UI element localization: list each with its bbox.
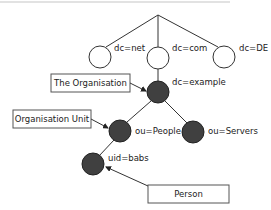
node-uid-babs[interactable] — [82, 153, 104, 175]
node-ou-servers[interactable] — [182, 121, 204, 143]
label-dc-com: dc=com — [172, 43, 207, 53]
label-uid-babs: uid=babs — [108, 153, 149, 163]
callout-arrow — [106, 167, 148, 186]
callout-label: Organisation Unit — [15, 114, 90, 124]
callout-organisation-unit: Organisation Unit — [13, 110, 108, 128]
label-dc-net: dc=net — [114, 43, 146, 53]
tree-nodes — [82, 46, 235, 175]
callout-arrow — [130, 83, 146, 91]
label-dc-de: dc=DE — [239, 43, 268, 53]
label-ou-people: ou=People — [135, 126, 181, 136]
edge-example-servers — [165, 101, 187, 123]
callout-person: Person — [106, 167, 229, 203]
callout-label: Person — [174, 189, 203, 199]
callout-the-organisation: The Organisation — [51, 74, 146, 92]
node-dc-com[interactable] — [147, 47, 169, 69]
node-dc-net[interactable] — [89, 46, 111, 68]
callout-label: The Organisation — [53, 78, 127, 88]
node-dc-example[interactable] — [147, 81, 169, 103]
node-dc-de[interactable] — [213, 46, 235, 68]
ldap-tree-diagram: dc=net dc=com dc=DE dc=example ou=People… — [0, 0, 271, 210]
label-dc-example: dc=example — [172, 77, 226, 87]
node-ou-people[interactable] — [109, 120, 131, 142]
callout-arrow — [91, 119, 108, 128]
edge-example-people — [127, 101, 151, 122]
label-ou-servers: ou=Servers — [208, 126, 259, 136]
